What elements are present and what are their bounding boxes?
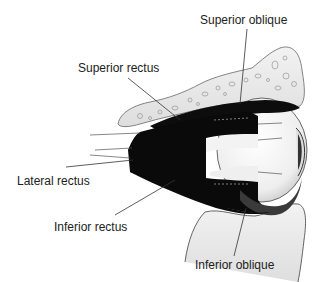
diagram-art <box>0 0 326 282</box>
label-superior-oblique: Superior oblique <box>200 13 287 27</box>
label-superior-rectus: Superior rectus <box>78 61 159 75</box>
leader-inferior-rectus <box>115 180 175 215</box>
eye-muscles-diagram: Superior oblique Superior rectus Lateral… <box>0 0 326 282</box>
label-inferior-rectus: Inferior rectus <box>54 220 127 234</box>
leader-lateral-rectus <box>66 160 133 167</box>
label-inferior-oblique: Inferior oblique <box>195 258 274 272</box>
label-lateral-rectus: Lateral rectus <box>17 174 90 188</box>
